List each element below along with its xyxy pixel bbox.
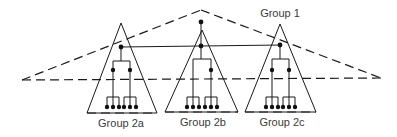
- leaf-baseline-dashes: [87, 112, 316, 113]
- group-hierarchy-diagram: Group 1 Group 2a Group 2b Group 2c: [0, 0, 397, 137]
- group-2c-label: Group 2c: [259, 116, 304, 128]
- group-2b-tree: [165, 22, 238, 112]
- group-2c-tree: [245, 24, 316, 112]
- group-2a-triangle: [87, 23, 157, 113]
- group-2c-triangle: [245, 24, 316, 112]
- group-2a-tree: [87, 23, 157, 113]
- group-2a-label: Group 2a: [98, 117, 144, 129]
- group-2b-nodes: [185, 20, 219, 110]
- group-2b-label: Group 2b: [180, 116, 226, 128]
- group-1-label: Group 1: [260, 7, 300, 19]
